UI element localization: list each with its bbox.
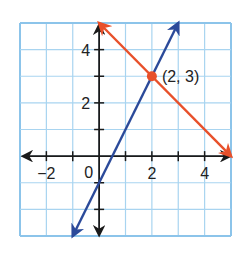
x-tick-label: 2 (147, 165, 156, 182)
x-tick-label: 4 (200, 165, 209, 182)
intersection-label: (2, 3) (162, 68, 199, 85)
y-tick-label: 2 (81, 95, 90, 112)
coordinate-graph: (2, 3) −224240 (0, 0, 242, 254)
tick-labels: −224240 (37, 42, 209, 183)
intersection-point (147, 71, 157, 81)
y-tick-label: 4 (81, 42, 90, 59)
x-tick-label: −2 (37, 165, 55, 182)
origin-label: 0 (84, 164, 93, 181)
line-red (99, 23, 231, 156)
